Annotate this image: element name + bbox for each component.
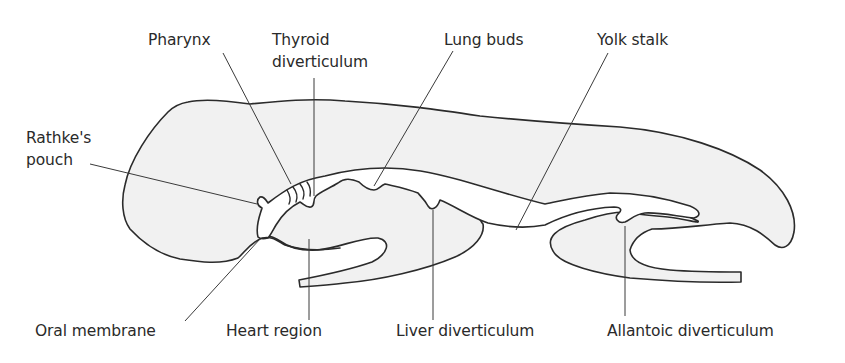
embryo-gut-diagram: Pharynx Thyroid diverticulum Lung buds Y… xyxy=(0,0,845,363)
label-allantoic-diverticulum: Allantoic diverticulum xyxy=(607,320,774,342)
label-thyroid-line1: Thyroid xyxy=(272,29,329,51)
label-rathke-line1: Rathke's xyxy=(26,127,91,149)
label-pharynx: Pharynx xyxy=(148,29,211,51)
label-liver-diverticulum: Liver diverticulum xyxy=(396,320,534,342)
label-yolk-stalk: Yolk stalk xyxy=(597,29,668,51)
diagram-artwork xyxy=(0,0,845,363)
label-rathke-line2: pouch xyxy=(26,149,73,171)
label-heart-region: Heart region xyxy=(226,320,322,342)
label-lung-buds: Lung buds xyxy=(444,29,523,51)
label-oral-membrane: Oral membrane xyxy=(35,320,156,342)
label-thyroid-line2: diverticulum xyxy=(272,51,368,73)
